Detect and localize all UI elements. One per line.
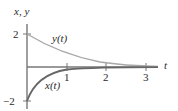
tick-label-y2: 2 — [13, 28, 19, 40]
tick-label-x1: 1 — [64, 71, 70, 83]
tick-label-x2: 2 — [103, 71, 109, 83]
series-y-label: y(t) — [51, 32, 68, 45]
tick-label-yneg2: −2 — [3, 95, 15, 107]
series-x-label: x(t) — [44, 79, 61, 92]
series-y-curve — [27, 34, 158, 67]
chart: x, y t 1 2 3 2 −2 y(t) x(t) — [0, 0, 178, 111]
t-axis-label: t — [164, 59, 168, 71]
tick-label-x3: 3 — [143, 71, 149, 83]
y-axis-label: x, y — [13, 5, 29, 17]
